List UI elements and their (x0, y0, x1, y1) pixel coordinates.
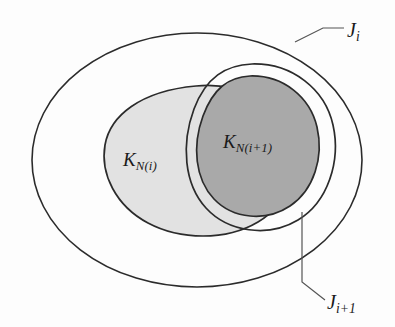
label-Ji1: Ji+1 (327, 292, 356, 315)
label-Ji1-base: J (327, 291, 336, 313)
label-KNi-base: K (123, 149, 136, 170)
label-KNi: KN(i) (123, 150, 157, 173)
leader-line-Ji (295, 28, 344, 42)
label-KNi1-subscript: N(i+1) (236, 140, 273, 155)
label-KNi1-base: K (223, 131, 236, 152)
label-Ji-subscript: i (356, 29, 360, 44)
label-Ji-base: J (347, 19, 356, 41)
set-diagram (0, 0, 395, 327)
figure-root: Ji Ji+1 KN(i) KN(i+1) (0, 0, 395, 327)
label-Ji1-subscript: i+1 (336, 301, 356, 316)
label-KNi-subscript: N(i) (136, 158, 157, 173)
label-KNi1: KN(i+1) (223, 132, 272, 155)
label-Ji: Ji (347, 20, 360, 43)
